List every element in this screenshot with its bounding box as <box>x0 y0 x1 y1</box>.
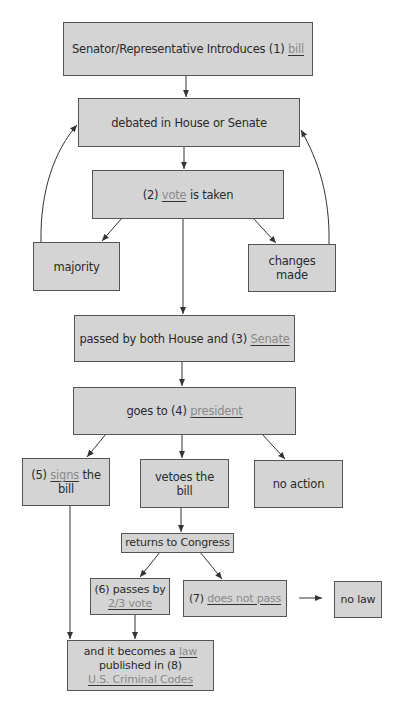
node-returns-to-congress: returns to Congress <box>121 533 234 553</box>
node-text: vetoes the <box>155 470 214 484</box>
node-vetoes-bill: vetoes the bill <box>140 459 229 508</box>
node-text: the <box>79 468 101 482</box>
node-changes-made: changes made <box>248 244 336 292</box>
blank-term-does-not-pass: does not pass <box>207 592 281 605</box>
blank-term-vote: vote <box>162 188 187 202</box>
node-signs-bill: (5) signs the bill <box>22 458 110 506</box>
node-text: no action <box>273 477 325 491</box>
node-majority: majority <box>33 242 120 291</box>
node-debated: debated in House or Senate <box>78 98 300 147</box>
node-text: goes to (4) <box>126 404 190 418</box>
node-text: majority <box>53 260 99 274</box>
node-becomes-law: and it becomes a law published in (8) U.… <box>67 640 214 691</box>
node-text: returns to Congress <box>125 536 229 550</box>
blank-term-bill: bill <box>288 42 304 56</box>
node-text: no law <box>341 593 376 607</box>
node-no-law: no law <box>334 581 382 618</box>
node-text: (6) passes by <box>94 583 165 596</box>
node-no-action: no action <box>254 460 343 508</box>
node-goes-to-president: goes to (4) president <box>73 387 296 435</box>
node-passed-both: passed by both House and (3) Senate <box>74 315 295 362</box>
node-passes-two-thirds: (6) passes by 2/3 vote <box>90 578 170 615</box>
node-does-not-pass: (7) does not pass <box>183 580 287 617</box>
node-text: is taken <box>186 188 233 202</box>
node-text: (2) <box>143 188 162 202</box>
node-introduce-bill: Senator/Representative Introduces (1) bi… <box>63 22 313 76</box>
blank-term-criminal-codes: U.S. Criminal Codes <box>88 673 193 686</box>
blank-term-law: law <box>179 645 197 658</box>
node-text: Senator/Representative Introduces (1) <box>72 42 288 56</box>
blank-term-two-thirds-vote: 2/3 vote <box>108 597 152 610</box>
node-text: debated in House or Senate <box>111 116 267 130</box>
node-text: bill <box>176 484 192 498</box>
node-text: bill <box>58 482 74 496</box>
node-text: passed by both House and (3) <box>79 332 250 346</box>
blank-term-signs: signs <box>50 468 79 482</box>
node-text: changes made <box>252 254 332 282</box>
blank-term-senate: Senate <box>250 332 289 346</box>
node-text: (7) <box>189 592 207 605</box>
node-text: published in (8) <box>99 659 182 672</box>
blank-term-president: president <box>190 404 242 418</box>
node-text: (5) <box>31 468 50 482</box>
node-text: and it becomes a <box>84 645 179 658</box>
node-vote-taken: (2) vote is taken <box>92 170 284 219</box>
